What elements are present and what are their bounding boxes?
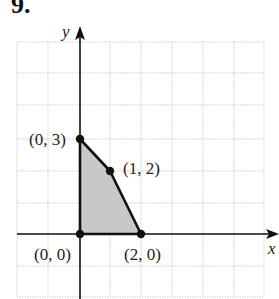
label-0-0: (0, 0) <box>34 246 71 263</box>
point-1-2 <box>106 167 114 175</box>
label-0-3: (0, 3) <box>29 131 66 148</box>
label-2-0: (2, 0) <box>124 246 161 263</box>
y-axis-label: y <box>62 23 70 40</box>
x-axis-label: x <box>268 240 276 257</box>
point-2-0 <box>137 230 145 238</box>
label-1-2: (1, 2) <box>123 160 160 177</box>
point-0-3 <box>76 135 84 143</box>
point-0-0 <box>76 230 84 238</box>
figure: 9. <box>0 0 279 299</box>
